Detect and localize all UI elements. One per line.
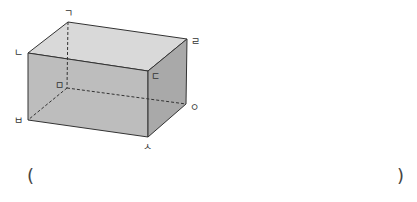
answer-close-paren: ) [397, 165, 404, 186]
vertex-label-giyeok: ㄱ [64, 8, 73, 19]
vertex-label-nieun: ㄴ [14, 47, 23, 58]
vertex-label-rieul: ㄹ [191, 36, 200, 47]
answer-open-paren: ( [27, 165, 34, 186]
vertex-label-ieung: ㅇ [190, 102, 199, 113]
vertex-label-bieup: ㅂ [14, 115, 23, 126]
vertex-label-mieum: ㅁ [55, 80, 64, 91]
vertex-label-digeut: ㄷ [151, 71, 160, 82]
answer-blank[interactable] [40, 165, 390, 189]
vertex-label-siot: ㅅ [143, 141, 152, 152]
